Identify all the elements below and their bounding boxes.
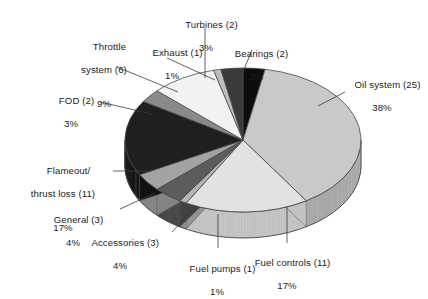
slice-label-exhaust-name: Exhaust (1) bbox=[152, 47, 202, 58]
slice-label-bearings: Bearings (2) 3% bbox=[215, 37, 297, 105]
slice-label-flameout-line2: thrust loss (11) bbox=[14, 188, 112, 199]
slice-label-flameout-line1: Flameout/ bbox=[47, 165, 91, 176]
slice-label-fuel-controls: Fuel controls (11) 17% bbox=[231, 246, 343, 299]
slice-label-fuel-controls-name: Fuel controls (11) bbox=[255, 257, 331, 268]
slice-label-accessories: Accessories (3) 4% bbox=[70, 226, 170, 294]
slice-label-accessories-name: Accessories (3) bbox=[91, 237, 159, 248]
slice-label-fod-pct: 3% bbox=[44, 118, 98, 129]
slice-label-throttle-line2: system (6) bbox=[66, 64, 142, 75]
slice-label-general-name: General (3) bbox=[54, 214, 104, 225]
slice-label-oil-system-pct: 38% bbox=[336, 102, 428, 113]
slice-label-fod-name: FOD (2) bbox=[59, 95, 94, 106]
slice-label-bearings-pct: 3% bbox=[215, 71, 297, 82]
slice-label-fuel-controls-pct: 17% bbox=[231, 280, 343, 291]
slice-label-oil-system: Oil system (25) 38% bbox=[336, 68, 428, 136]
slice-label-oil-system-name: Oil system (25) bbox=[355, 79, 421, 90]
slice-label-accessories-pct: 4% bbox=[70, 260, 170, 271]
slice-label-turbines-name: Turbines (2) bbox=[185, 19, 238, 30]
slice-label-throttle-line1: Throttle bbox=[93, 41, 126, 52]
slice-label-exhaust-pct: 1% bbox=[136, 70, 208, 81]
slice-label-bearings-name: Bearings (2) bbox=[235, 48, 288, 59]
slice-label-exhaust: Exhaust (1) 1% bbox=[136, 36, 208, 104]
slice-label-fod: FOD (2) 3% bbox=[44, 84, 98, 152]
